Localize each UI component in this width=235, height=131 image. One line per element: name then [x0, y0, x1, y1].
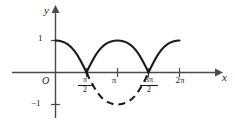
origin-label: O	[42, 76, 49, 86]
graph-figure: y x O 1 −1 π 2 π 3π 2 2π	[0, 0, 235, 131]
x-axis-label: x	[222, 72, 227, 83]
x-tick-label-pi-half: π 2	[78, 76, 92, 94]
curve-abs-cos-solid	[56, 41, 180, 73]
x-tick-label-pi-half-denominator: 2	[78, 86, 92, 94]
x-tick-label-2pi: 2π	[172, 76, 188, 85]
x-tick-label-3pi-half: 3π 2	[140, 76, 158, 94]
y-tick-label-1: 1	[38, 34, 43, 43]
x-tick-label-3pi-half-numerator: 3π	[140, 76, 158, 84]
y-tick-label-neg1: −1	[31, 99, 41, 108]
x-tick-label-pi-half-numerator: π	[78, 76, 92, 84]
x-tick-label-3pi-half-denominator: 2	[140, 86, 158, 94]
x-tick-label-pi: π	[108, 76, 120, 85]
plot-svg	[0, 0, 235, 131]
y-axis-label: y	[44, 5, 49, 16]
